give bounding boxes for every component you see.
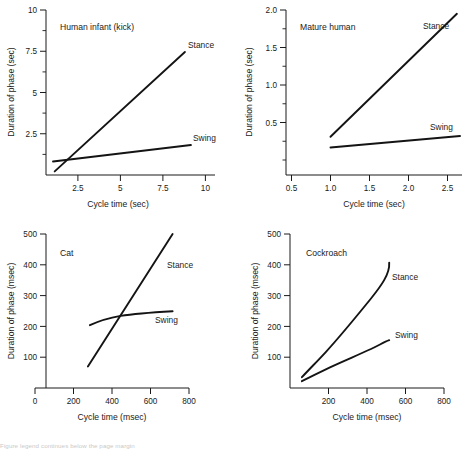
y-ticklabel: 300 xyxy=(23,292,37,301)
x-ticklabel: 800 xyxy=(182,397,196,406)
x-ticklabel: 7.5 xyxy=(157,184,169,193)
series-group xyxy=(88,234,173,367)
y-ticks xyxy=(284,234,290,357)
x-ticklabel: 0 xyxy=(33,397,38,406)
x-ticklabel: 1.5 xyxy=(364,184,376,193)
panel-title: Cockroach xyxy=(306,248,347,258)
y-ticklabel: 300 xyxy=(267,292,281,301)
x-axis-title: Cycle time (msec) xyxy=(333,412,402,422)
y-axis-group: 500 400 300 200 100 Duration of phase (m… xyxy=(6,230,46,388)
y-ticks xyxy=(280,10,286,160)
series-label-swing: Swing xyxy=(193,133,216,143)
series-line-stance xyxy=(88,234,173,367)
y-axis-title: Duration of phase (sec) xyxy=(244,47,254,136)
y-ticks xyxy=(40,10,46,154)
x-axis-group: 0 200 400 600 800 Cycle time (msec) xyxy=(33,388,197,422)
y-axis-title: Duration of phase (sec) xyxy=(6,47,16,136)
y-axis-group: 500 400 300 200 100 Duration of phase (m… xyxy=(250,230,290,388)
x-ticklabel: 200 xyxy=(67,397,81,406)
x-axis-group: 200 400 600 800 Cycle time (msec) xyxy=(290,388,451,422)
x-ticklabel: 800 xyxy=(437,397,451,406)
series-label-stance: Stance xyxy=(188,40,214,50)
y-ticklabel: 100 xyxy=(23,353,37,362)
y-ticklabel: 1.0 xyxy=(266,81,278,90)
x-ticklabel: 2.0 xyxy=(403,184,415,193)
y-axis-group: 2.0 1.5 1.0 0.5 Duration of phase (sec) xyxy=(244,6,286,175)
y-ticklabel: 1.5 xyxy=(266,44,278,53)
x-ticklabel: 400 xyxy=(105,397,119,406)
panel-title: Mature human xyxy=(300,22,356,32)
series-label-swing: Swing xyxy=(155,315,178,325)
y-ticklabel: 500 xyxy=(23,230,37,239)
x-axis-title: Cycle time (msec) xyxy=(78,412,147,422)
series-group xyxy=(53,52,191,171)
series-label-swing: Swing xyxy=(395,330,418,340)
x-ticklabel: 2.5 xyxy=(72,184,84,193)
chart-panel-cockroach: 500 400 300 200 100 Duration of phase (m… xyxy=(234,216,468,438)
x-ticklabel: 10 xyxy=(201,184,211,193)
panel-title: Cat xyxy=(60,248,74,258)
y-ticklabel: 0.5 xyxy=(266,119,278,128)
y-ticklabel: 500 xyxy=(267,230,281,239)
y-ticklabel: 5 xyxy=(32,89,37,98)
series-line-stance xyxy=(331,14,457,137)
y-ticklabel: 400 xyxy=(267,261,281,270)
y-ticklabel: 200 xyxy=(267,323,281,332)
chart-panel-mature-human: 2.0 1.5 1.0 0.5 Duration of phase (sec) … xyxy=(234,0,468,222)
y-ticklabel: 100 xyxy=(267,353,281,362)
y-axis-title: Duration of phase (msec) xyxy=(6,263,16,360)
chart-svg-cockroach: 500 400 300 200 100 Duration of phase (m… xyxy=(234,216,468,450)
y-ticklabel: 400 xyxy=(23,261,37,270)
x-axis-title: Cycle time (sec) xyxy=(343,199,405,209)
x-ticks xyxy=(35,388,189,394)
x-axis-title: Cycle time (sec) xyxy=(87,199,149,209)
series-label-stance: Stance xyxy=(423,21,449,31)
x-ticklabel: 5 xyxy=(118,184,123,193)
x-ticklabel: 200 xyxy=(322,397,336,406)
y-axis-title: Duration of phase (msec) xyxy=(250,263,260,360)
caption-fragment: Figure legend continues below the page m… xyxy=(0,441,468,450)
series-label-stance: Stance xyxy=(167,260,193,270)
chart-svg-cat: 500 400 300 200 100 Duration of phase (m… xyxy=(0,216,234,450)
x-ticklabel: 400 xyxy=(360,397,374,406)
y-ticklabel: 2.0 xyxy=(266,6,278,15)
y-ticklabel: 7.5 xyxy=(26,47,38,56)
y-ticklabel: 2.5 xyxy=(26,130,38,139)
x-axis-group: 0.5 1.0 1.5 2.0 2.5 Cycle time (sec) xyxy=(286,175,462,209)
x-ticks xyxy=(292,175,448,181)
x-ticks xyxy=(329,388,445,394)
series-label-swing: Swing xyxy=(430,122,453,132)
y-axis-group: 10 7.5 5 2.5 Duration of phase (sec) xyxy=(6,6,46,175)
chart-panel-cat: 500 400 300 200 100 Duration of phase (m… xyxy=(0,216,234,438)
y-ticklabel: 10 xyxy=(28,6,38,15)
x-ticklabel: 600 xyxy=(144,397,158,406)
x-ticklabel: 2.5 xyxy=(442,184,454,193)
series-line-swing xyxy=(302,340,389,381)
series-line-swing xyxy=(331,136,461,148)
chart-svg-mature-human: 2.0 1.5 1.0 0.5 Duration of phase (sec) … xyxy=(234,0,468,222)
panel-title: Human infant (kick) xyxy=(60,22,134,32)
figure-container: 10 7.5 5 2.5 Duration of phase (sec) 2.5… xyxy=(0,0,468,450)
series-label-stance: Stance xyxy=(392,272,418,282)
x-ticklabel: 1.0 xyxy=(325,184,337,193)
y-ticklabel: 200 xyxy=(23,323,37,332)
x-ticklabel: 600 xyxy=(399,397,413,406)
chart-svg-human-infant: 10 7.5 5 2.5 Duration of phase (sec) 2.5… xyxy=(0,0,234,222)
x-ticks xyxy=(78,175,205,181)
chart-panel-human-infant: 10 7.5 5 2.5 Duration of phase (sec) 2.5… xyxy=(0,0,234,222)
x-ticklabel: 0.5 xyxy=(286,184,298,193)
series-group xyxy=(302,263,389,382)
x-axis-group: 2.5 5 7.5 10 Cycle time (sec) xyxy=(46,175,215,209)
y-ticks xyxy=(40,234,46,357)
